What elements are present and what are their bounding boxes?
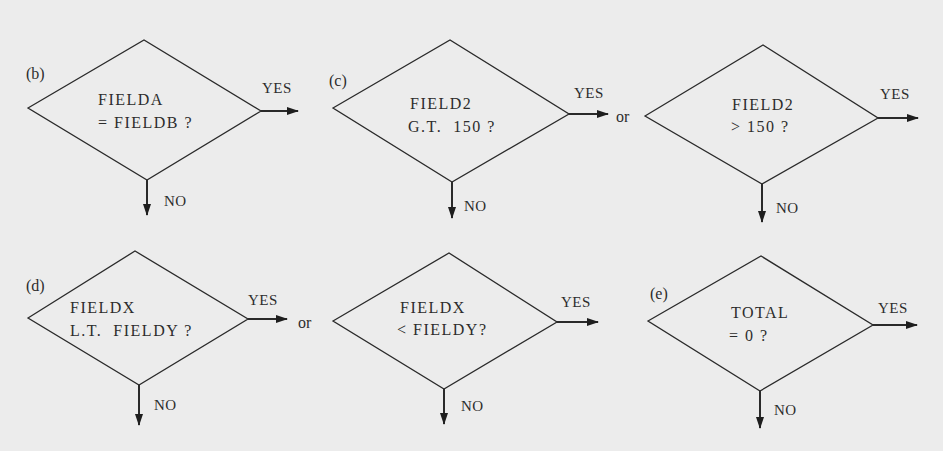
yes-label-d1: YES (248, 292, 278, 308)
yes-label-d2: YES (561, 294, 591, 310)
condition-b-line1: FIELDA (98, 92, 164, 108)
yes-label-e: YES (878, 300, 908, 316)
condition-c2-line2: > 150 ? (731, 119, 790, 135)
decision-diamond-b (28, 40, 261, 180)
decision-diamond-c2 (645, 45, 878, 184)
yes-label-c2: YES (880, 86, 910, 102)
condition-d1-line1: FIELDX (70, 300, 136, 316)
no-label-e: NO (774, 402, 797, 418)
or-connector-c: or (616, 109, 629, 125)
condition-c1-line2: G.T. 150 ? (408, 119, 496, 135)
condition-d1-line2: L.T. FIELDY ? (70, 323, 193, 339)
no-label-d1: NO (154, 397, 177, 413)
flowchart-canvas (0, 0, 943, 451)
no-label-c1: NO (464, 198, 487, 214)
decision-diamond-e (648, 256, 873, 391)
condition-b-line2: = FIELDB ? (98, 115, 193, 131)
condition-d2-line2: < FIELDY? (397, 322, 488, 338)
condition-e-line1: TOTAL (731, 305, 789, 321)
label-e: (e) (650, 286, 668, 302)
or-connector-d: or (298, 315, 311, 331)
condition-c1-line1: FIELD2 (410, 96, 472, 112)
label-c: (c) (329, 73, 347, 89)
condition-d2-line1: FIELDX (400, 300, 466, 316)
yes-label-c1: YES (574, 85, 604, 101)
no-label-d2: NO (461, 398, 484, 414)
label-b: (b) (26, 66, 45, 82)
label-d: (d) (26, 278, 45, 294)
no-label-c2: NO (776, 200, 799, 216)
yes-label-b: YES (262, 80, 292, 96)
condition-c2-line1: FIELD2 (732, 97, 794, 113)
decision-diamond-d1 (28, 251, 248, 385)
no-label-b: NO (164, 193, 187, 209)
condition-e-line2: = 0 ? (729, 328, 769, 344)
